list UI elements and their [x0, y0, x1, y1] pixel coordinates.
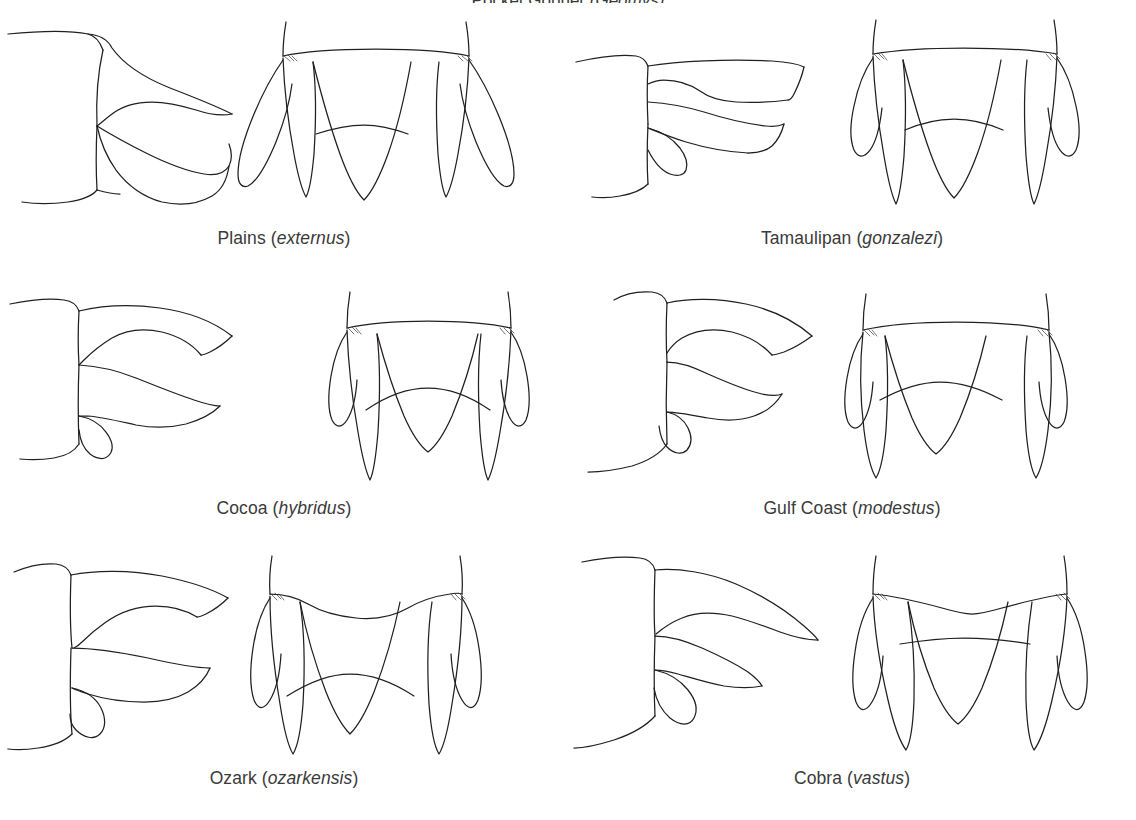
caption-cobra-vastus: Cobra (vastus) [794, 769, 910, 788]
ventral-view-gulf-coast-modestus [845, 294, 1067, 478]
caption-paren-close: ) [346, 498, 352, 518]
figure-pair-tamaulipan-gonzalezi [568, 14, 1136, 229]
caption-paren-close: ) [345, 228, 351, 248]
plate-title: Pocket Gopher (Geomys) [0, 0, 1136, 3]
caption-paren-close: ) [352, 768, 358, 788]
ventral-view-plains-externus [238, 22, 514, 200]
lateral-view-gulf-coast-modestus [588, 292, 812, 472]
lateral-view-cobra-vastus [574, 557, 818, 748]
panel-tamaulipan-gonzalezi: Tamaulipan (gonzalezi) [568, 14, 1136, 284]
common-name: Plains [217, 228, 265, 248]
ventral-view-cocoa-hybridus [329, 292, 529, 480]
scientific-epithet: gonzalezi [862, 228, 937, 248]
caption-tamaulipan-gonzalezi: Tamaulipan (gonzalezi) [761, 229, 943, 248]
caption-paren-close: ) [935, 498, 941, 518]
panel-plains-externus: Plains (externus) [0, 14, 568, 284]
panel-grid: Plains (externus) [0, 14, 1136, 820]
common-name: Tamaulipan [761, 228, 852, 248]
morphology-plate: Pocket Gopher (Geomys) [0, 0, 1136, 820]
lateral-view-cocoa-hybridus [10, 299, 232, 459]
caption-paren-close: ) [904, 768, 910, 788]
figure-pair-cocoa-hybridus [0, 284, 568, 499]
panel-ozark-ozarkensis: Ozark (ozarkensis) [0, 554, 568, 820]
caption-paren-close: ) [937, 228, 943, 248]
plate-title-scientific: (Geomys) [590, 0, 665, 3]
common-name: Ozark [210, 768, 257, 788]
figure-pair-gulf-coast-modestus [568, 284, 1136, 499]
figure-pair-cobra-vastus [568, 554, 1136, 769]
caption-ozark-ozarkensis: Ozark (ozarkensis) [210, 769, 359, 788]
common-name: Cocoa [217, 498, 268, 518]
scientific-epithet: ozarkensis [268, 768, 353, 788]
scientific-epithet: hybridus [279, 498, 346, 518]
ventral-view-ozark-ozarkensis [251, 556, 481, 754]
figure-pair-plains-externus [0, 14, 568, 229]
panel-cocoa-hybridus: Cocoa (hybridus) [0, 284, 568, 554]
caption-plains-externus: Plains (externus) [217, 229, 350, 248]
lateral-view-ozark-ozarkensis [8, 564, 228, 750]
scientific-epithet: externus [277, 228, 345, 248]
panel-gulf-coast-modestus: Gulf Coast (modestus) [568, 284, 1136, 554]
figure-pair-ozark-ozarkensis [0, 554, 568, 769]
ventral-view-cobra-vastus [853, 556, 1087, 750]
plate-title-common: Pocket Gopher [472, 0, 585, 3]
scientific-epithet: modestus [858, 498, 935, 518]
lateral-view-tamaulipan-gonzalezi [576, 55, 804, 197]
scientific-epithet: vastus [853, 768, 904, 788]
lateral-view-plains-externus [8, 31, 232, 204]
common-name: Cobra [794, 768, 842, 788]
caption-gulf-coast-modestus: Gulf Coast (modestus) [763, 499, 940, 518]
common-name: Gulf Coast [763, 498, 847, 518]
caption-cocoa-hybridus: Cocoa (hybridus) [217, 499, 352, 518]
ventral-view-tamaulipan-gonzalezi [851, 20, 1079, 204]
panel-cobra-vastus: Cobra (vastus) [568, 554, 1136, 820]
